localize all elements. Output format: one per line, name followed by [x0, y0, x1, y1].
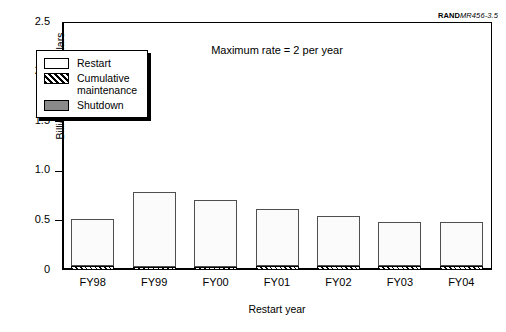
y-axis-tick-label: 0	[44, 263, 50, 275]
legend-item: Shutdown	[44, 99, 137, 112]
x-axis-tick-label: FY03	[369, 276, 430, 288]
legend-swatch-icon	[44, 73, 69, 84]
bar-segment[interactable]	[317, 216, 360, 266]
x-axis-tick-label: FY99	[123, 276, 184, 288]
legend-item-label: Shutdown	[77, 99, 124, 112]
source-brand: RAND	[438, 11, 460, 20]
legend-swatch-icon	[44, 100, 69, 111]
x-axis-tick-label: FY00	[185, 276, 246, 288]
bar-segment[interactable]	[317, 266, 360, 270]
legend-item: Restart	[44, 57, 137, 70]
bar-segment[interactable]	[194, 200, 237, 267]
y-axis-tick-label: 2.5	[35, 15, 50, 27]
bar-segment[interactable]	[133, 192, 176, 267]
y-axis-tick: 0.5	[0, 220, 62, 221]
y-axis-tick-mark	[55, 121, 62, 122]
x-axis-tick-label: FY02	[308, 276, 369, 288]
bar-segment[interactable]	[440, 266, 483, 270]
y-axis-tick-mark	[55, 220, 62, 221]
bar-group[interactable]	[317, 22, 360, 270]
x-axis-title: Restart year	[62, 303, 492, 315]
figure-container: RANDMR456-3.5 Billions of FY92 dollars 0…	[0, 0, 506, 332]
bar-segment[interactable]	[378, 266, 421, 270]
bar-group[interactable]	[256, 22, 299, 270]
y-axis-tick-mark	[55, 171, 62, 172]
y-axis-tick: 2.5	[0, 22, 62, 23]
source-tag: RANDMR456-3.5	[438, 11, 498, 20]
bar-segment[interactable]	[440, 222, 483, 266]
legend-item-label: Restart	[77, 57, 111, 70]
x-axis-tick-label: FY04	[431, 276, 492, 288]
legend-swatch-icon	[44, 58, 69, 69]
source-code: MR456-3.5	[460, 11, 498, 20]
legend-item-label: Cumulative maintenance	[77, 72, 137, 97]
y-axis-tick: 1.0	[0, 171, 62, 172]
y-axis-tick-label: 1.0	[35, 163, 50, 175]
bar-segment[interactable]	[378, 222, 421, 266]
y-axis-tick: 1.5	[0, 121, 62, 122]
y-axis-tick-label: 0.5	[35, 213, 50, 225]
chart-legend: RestartCumulative maintenanceShutdown	[36, 50, 148, 118]
x-axis-tick-label: FY98	[62, 276, 123, 288]
bar-segment[interactable]	[71, 219, 114, 266]
y-axis-tick: 0	[0, 270, 62, 271]
bar-segment[interactable]	[256, 209, 299, 267]
bar-group[interactable]	[194, 22, 237, 270]
bar-segment[interactable]	[133, 267, 176, 270]
bar-segment[interactable]	[256, 266, 299, 270]
bar-segment[interactable]	[194, 267, 237, 270]
x-axis-tick-label: FY01	[246, 276, 307, 288]
bar-group[interactable]	[440, 22, 483, 270]
bar-segment[interactable]	[71, 266, 114, 270]
legend-item: Cumulative maintenance	[44, 72, 137, 97]
bar-group[interactable]	[378, 22, 421, 270]
